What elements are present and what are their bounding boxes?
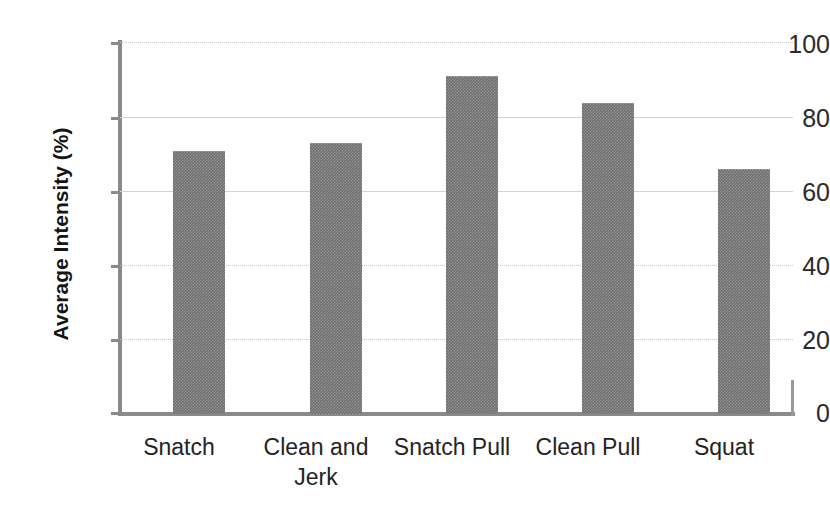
bar-snatch: [173, 151, 225, 414]
bar-snatch-pull: [446, 76, 498, 414]
x-tick-label-clean-and-jerk: Clean and Jerk: [241, 432, 391, 492]
x-tick-label-clean-pull-line1: Clean Pull: [513, 432, 663, 462]
x-tick-label-snatch-pull-line1: Snatch Pull: [377, 432, 527, 462]
x-tick-label-clean-and-jerk-line1: Clean and: [241, 432, 391, 462]
bar-chart-figure: Average Intensity (%) 100 80 60 40 20 0 …: [0, 0, 830, 520]
x-tick-label-snatch: Snatch: [104, 432, 254, 462]
x-tick-label-squat-line1: Squat: [649, 432, 799, 462]
gridline-100: [120, 42, 793, 43]
plot-area: [120, 42, 793, 414]
bar-clean-and-jerk: [310, 143, 362, 414]
y-axis-title: Average Intensity (%): [49, 54, 73, 414]
x-tick-label-squat: Squat: [649, 432, 799, 462]
x-tick-label-clean-and-jerk-line2: Jerk: [241, 462, 391, 492]
bar-squat: [718, 169, 770, 414]
x-tick-label-clean-pull: Clean Pull: [513, 432, 663, 462]
x-tick-label-snatch-pull: Snatch Pull: [377, 432, 527, 462]
bar-clean-pull: [582, 103, 634, 414]
x-tick-label-snatch-line1: Snatch: [104, 432, 254, 462]
